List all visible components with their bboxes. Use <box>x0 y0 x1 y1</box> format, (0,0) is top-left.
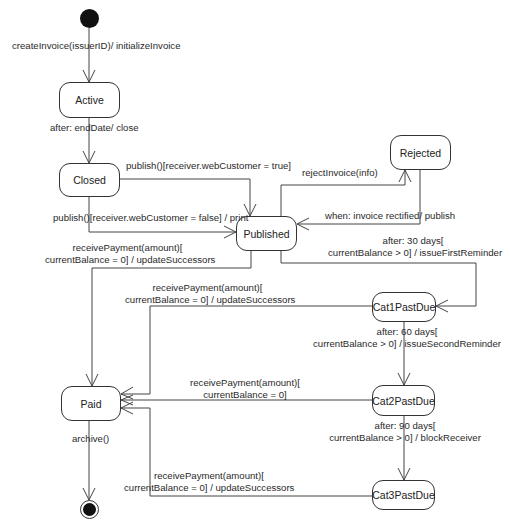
label-line: receivePayment(amount)[ <box>125 282 290 294</box>
label-line: after: 60 days[ <box>312 326 502 338</box>
label-published-cat1: after: 30 days[ currentBalance > 0] / is… <box>328 235 498 259</box>
label-cat1-cat2: after: 60 days[ currentBalance > 0] / is… <box>312 326 502 350</box>
label-line: currentBalance = 0] <box>185 389 305 401</box>
initial-pseudostate <box>80 9 99 28</box>
label-published-rejected: rejectInvoice(info) <box>302 167 378 179</box>
label-line: currentBalance = 0] / updateSuccessors <box>45 254 210 266</box>
label-closed-published-true: publish()[receiver.webCustomer = true] <box>126 160 291 172</box>
label-line: after: 90 days[ <box>325 420 485 432</box>
label-line: receivePayment(amount)[ <box>124 470 294 482</box>
label-line: currentBalance = 0] / updateSuccessors <box>124 482 294 494</box>
state-closed[interactable]: Closed <box>59 163 120 197</box>
state-paid[interactable]: Paid <box>61 386 121 421</box>
label-cat2-paid: receivePayment(amount)[ currentBalance =… <box>185 377 305 401</box>
final-state <box>80 500 99 519</box>
label-line: receivePayment(amount)[ <box>185 377 305 389</box>
label-line: currentBalance = 0] / updateSuccessors <box>125 294 290 306</box>
edge-closed-published-true <box>120 179 250 216</box>
state-cat3-past-due[interactable]: Cat3PastDue <box>372 480 435 510</box>
label-initial-active: createInvoice(issuerID)/ initializeInvoi… <box>12 40 181 52</box>
label-line: currentBalance > 0] / blockReceiver <box>325 432 485 444</box>
label-line: receivePayment(amount)[ <box>45 242 210 254</box>
label-rejected-published: when: invoice rectified/ publish <box>325 210 455 222</box>
state-rejected[interactable]: Rejected <box>390 135 451 170</box>
label-cat3-paid: receivePayment(amount)[ currentBalance =… <box>124 470 294 494</box>
label-cat2-cat3: after: 90 days[ currentBalance > 0] / bl… <box>325 420 485 444</box>
final-state-inner <box>83 503 96 516</box>
label-paid-final: archive() <box>72 433 109 445</box>
state-active[interactable]: Active <box>59 82 120 118</box>
label-closed-published-false: publish()[receiver.webCustomer = false] … <box>53 212 248 224</box>
label-published-paid: receivePayment(amount)[ currentBalance =… <box>45 242 210 266</box>
state-cat1-past-due[interactable]: Cat1PastDue <box>372 292 436 322</box>
state-cat2-past-due[interactable]: Cat2PastDue <box>372 385 435 416</box>
label-line: currentBalance > 0] / issueFirstReminder <box>328 247 498 259</box>
label-line: currentBalance > 0] / issueSecondReminde… <box>312 338 502 350</box>
label-line: after: 30 days[ <box>328 235 498 247</box>
edge-published-paid <box>92 251 251 386</box>
label-cat1-paid: receivePayment(amount)[ currentBalance =… <box>125 282 290 306</box>
label-active-closed: after: endDate/ close <box>50 122 139 134</box>
